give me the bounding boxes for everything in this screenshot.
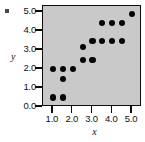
data-point bbox=[50, 94, 56, 100]
y-axis-tick-label: 4.0 bbox=[2, 25, 36, 35]
x-axis-tick bbox=[51, 106, 53, 113]
x-axis-tick bbox=[130, 106, 132, 113]
data-point bbox=[89, 57, 95, 63]
y-axis-tick-label: 1.0 bbox=[2, 82, 36, 92]
y-axis-tick-label: 5.0 bbox=[2, 6, 36, 16]
y-axis-tick bbox=[35, 67, 42, 69]
y-axis-tick bbox=[35, 105, 42, 107]
data-point bbox=[60, 94, 66, 100]
x-axis-tick-label: 5.0 bbox=[118, 114, 144, 124]
y-axis-tick bbox=[35, 86, 42, 88]
data-point bbox=[99, 20, 105, 26]
data-point bbox=[70, 66, 76, 72]
data-point bbox=[119, 38, 125, 44]
y-axis-tick bbox=[35, 29, 42, 31]
data-point bbox=[60, 66, 66, 72]
y-axis-tick-label: 2.0 bbox=[2, 63, 36, 73]
data-point bbox=[80, 57, 86, 63]
y-axis-tick bbox=[35, 10, 42, 12]
y-axis-tick-label: 3.0 bbox=[2, 44, 36, 54]
x-axis-tick bbox=[71, 106, 73, 113]
data-point bbox=[129, 11, 135, 17]
data-point bbox=[50, 66, 56, 72]
plot-panel bbox=[42, 5, 141, 106]
data-point bbox=[109, 38, 115, 44]
data-point bbox=[60, 76, 66, 82]
data-point bbox=[80, 44, 86, 50]
x-axis-label: x bbox=[0, 126, 145, 137]
y-axis-tick-label: 0.0 bbox=[2, 101, 36, 111]
data-point bbox=[89, 38, 95, 44]
data-point bbox=[109, 20, 115, 26]
data-point bbox=[99, 38, 105, 44]
scatter-plot-figure: y 0.01.02.03.04.05.0 1.02.03.04.05.0 x bbox=[0, 0, 145, 142]
x-axis-tick bbox=[91, 106, 93, 113]
y-axis-tick bbox=[35, 48, 42, 50]
data-points-layer bbox=[43, 6, 140, 105]
x-axis-tick bbox=[111, 106, 113, 113]
data-point bbox=[119, 20, 125, 26]
